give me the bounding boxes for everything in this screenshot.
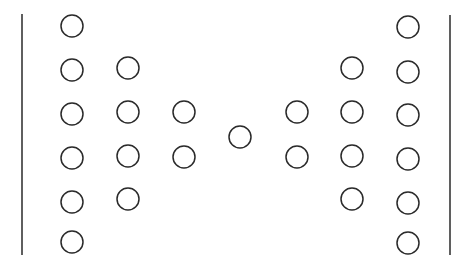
left-column-2 — [117, 57, 139, 210]
circle — [117, 57, 139, 79]
right-column-2 — [341, 57, 363, 210]
circle — [173, 146, 195, 168]
circle — [117, 101, 139, 123]
circle — [117, 188, 139, 210]
circle-array-diagram — [0, 0, 467, 271]
circle — [286, 146, 308, 168]
circle — [173, 101, 195, 123]
left-column-3 — [173, 101, 195, 168]
circle — [61, 231, 83, 253]
right-column-1 — [397, 16, 419, 254]
circle — [397, 232, 419, 254]
circle — [61, 191, 83, 213]
circle — [286, 101, 308, 123]
circle — [397, 16, 419, 38]
circle — [341, 101, 363, 123]
left-column-1 — [61, 15, 83, 253]
circle — [61, 59, 83, 81]
diagram-canvas — [0, 0, 467, 271]
circle — [229, 126, 251, 148]
circle — [61, 147, 83, 169]
circle — [397, 61, 419, 83]
right-column-3 — [286, 101, 308, 168]
circle — [117, 145, 139, 167]
circle — [341, 57, 363, 79]
circle — [61, 103, 83, 125]
circle — [397, 104, 419, 126]
circle — [397, 148, 419, 170]
circle — [341, 188, 363, 210]
center-column — [229, 126, 251, 148]
circle — [341, 145, 363, 167]
circle — [61, 15, 83, 37]
circle — [397, 192, 419, 214]
